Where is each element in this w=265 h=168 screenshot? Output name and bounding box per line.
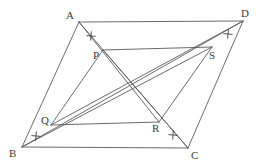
edge-BC <box>22 147 188 148</box>
edge-DC <box>188 21 243 148</box>
tick-BQ <box>32 132 40 140</box>
label-R: R <box>152 122 160 134</box>
inner-quadrilateral-PQRS <box>51 47 212 125</box>
edge-AB <box>22 22 79 147</box>
segment-BS <box>22 47 212 147</box>
label-A: A <box>66 9 74 21</box>
label-D: D <box>241 7 249 19</box>
tick-RC <box>169 131 177 139</box>
label-P: P <box>93 49 99 61</box>
label-C: C <box>191 149 198 161</box>
segment-QD <box>51 21 243 125</box>
geometry-figure: A D B C P Q R S <box>0 0 265 168</box>
tick-marks <box>32 30 232 140</box>
geometry-canvas: A D B C P Q R S <box>0 0 265 168</box>
label-B: B <box>9 147 16 159</box>
segment-PQ <box>51 50 103 125</box>
label-S: S <box>209 49 215 61</box>
label-Q: Q <box>41 114 49 126</box>
edge-AD <box>79 21 243 22</box>
